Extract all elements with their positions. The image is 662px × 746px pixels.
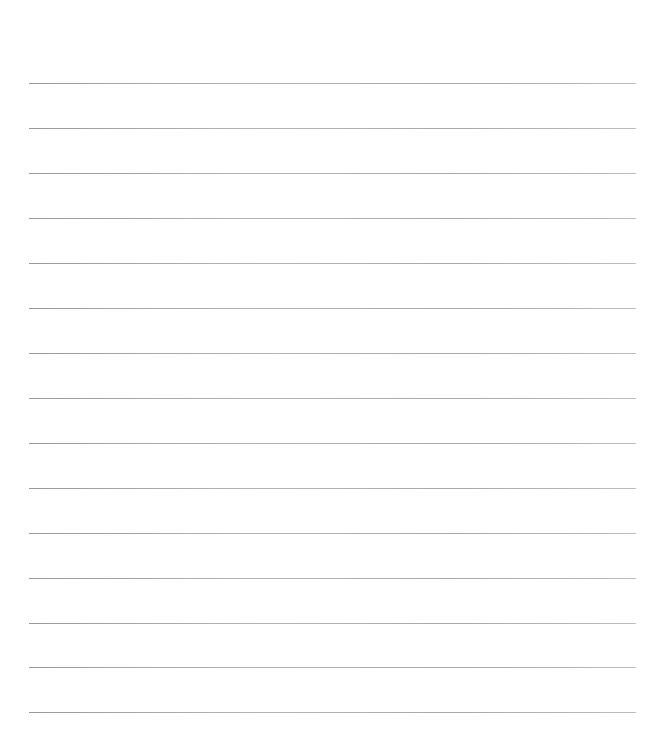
ruled-line	[29, 263, 636, 264]
ruled-line	[29, 533, 636, 534]
ruled-line	[29, 353, 636, 354]
ruled-line	[29, 218, 636, 219]
ruled-line	[29, 667, 636, 668]
ruled-line	[29, 173, 636, 174]
lined-page	[0, 0, 662, 746]
ruled-line	[29, 578, 636, 579]
ruled-line	[29, 128, 636, 129]
ruled-line	[29, 488, 636, 489]
ruled-line	[29, 308, 636, 309]
ruled-line	[29, 712, 636, 713]
ruled-line	[29, 83, 636, 84]
ruled-line	[29, 398, 636, 399]
ruled-line	[29, 443, 636, 444]
ruled-line	[29, 623, 636, 624]
